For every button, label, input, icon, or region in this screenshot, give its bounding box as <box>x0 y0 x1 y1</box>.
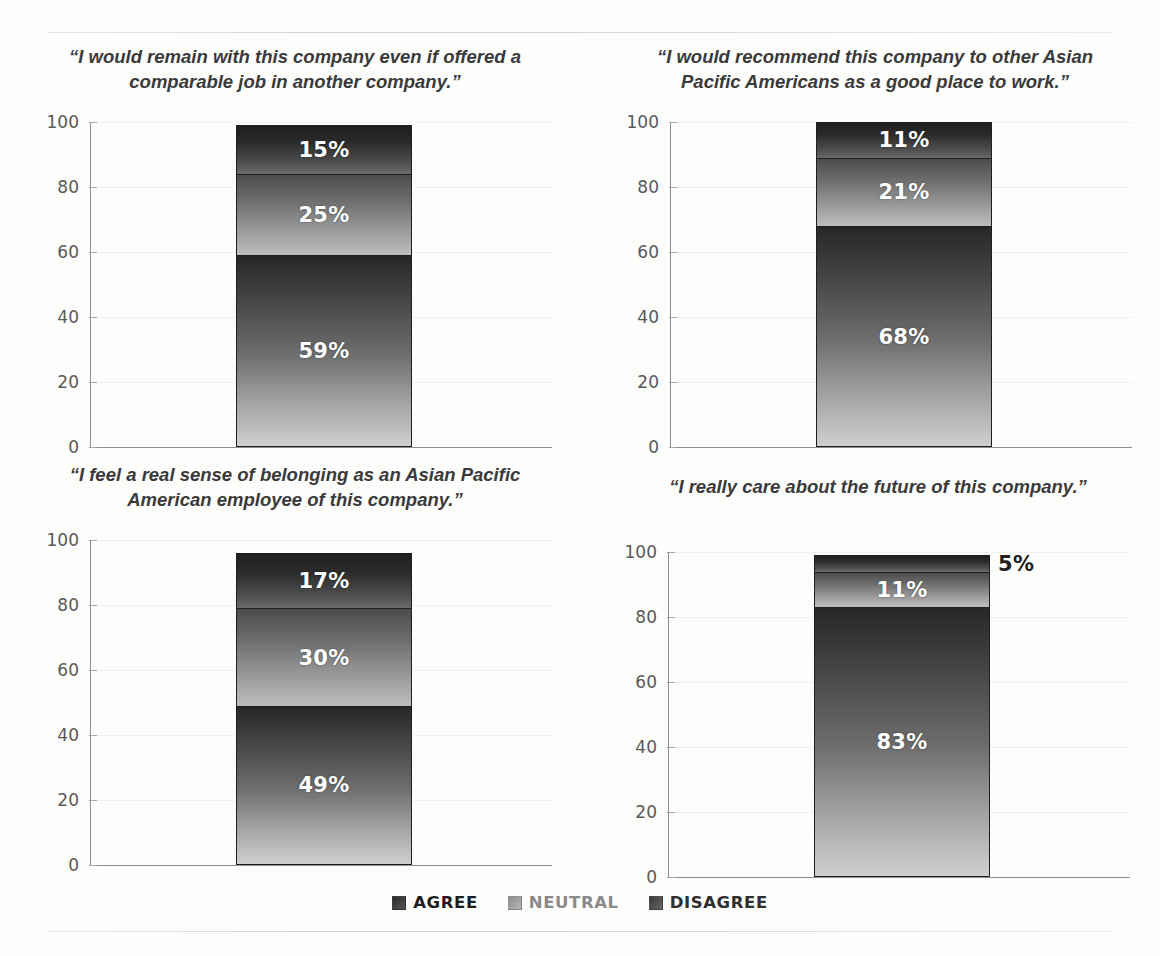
segment-value-label: 15% <box>298 138 349 162</box>
y-tick-20: 20 <box>637 372 659 392</box>
bar-segment-neutral[interactable]: 30% <box>236 608 412 706</box>
y-tick-0: 0 <box>646 867 657 887</box>
y-tick-40: 40 <box>57 307 79 327</box>
segment-value-label: 68% <box>878 325 929 349</box>
stacked-bar[interactable]: 15% 25% 59% <box>236 125 412 447</box>
legend-swatch-icon <box>392 896 406 910</box>
segment-value-label: 11% <box>878 128 929 152</box>
stacked-bar[interactable]: 5% 11% 83% <box>814 555 990 877</box>
chart-title: “I would recommend this company to other… <box>625 44 1125 94</box>
y-tick-80: 80 <box>57 177 79 197</box>
segment-value-label: 11% <box>876 578 927 602</box>
bar-segment-neutral[interactable]: 21% <box>816 158 992 226</box>
legend-item-neutral[interactable]: NEUTRAL <box>508 893 619 912</box>
segment-value-label: 30% <box>298 646 349 670</box>
legend-swatch-icon <box>649 896 663 910</box>
y-tick-40: 40 <box>637 307 659 327</box>
page-title <box>0 0 1160 8</box>
legend-label: NEUTRAL <box>529 893 619 912</box>
chart-panel-remain: “I would remain with this company even i… <box>0 40 580 460</box>
y-tick-80: 80 <box>637 177 659 197</box>
y-tick-40: 40 <box>57 725 79 745</box>
bar-segment-agree[interactable]: 49% <box>236 706 412 865</box>
stacked-bar[interactable]: 11% 21% 68% <box>816 122 992 447</box>
chart-grid: “I would remain with this company even i… <box>0 40 1160 890</box>
y-axis-line <box>90 122 91 447</box>
top-divider-rule <box>48 32 1112 33</box>
y-tick-20: 20 <box>57 790 79 810</box>
bottom-divider-rule <box>48 931 1112 932</box>
bar-segment-neutral[interactable]: 11% <box>814 572 990 608</box>
y-axis-line <box>90 540 91 865</box>
bar-segment-disagree[interactable]: 15% <box>236 125 412 174</box>
plot-area: 100 80 60 40 20 0 11% 21% 68% <box>670 122 1132 447</box>
y-tick-100: 100 <box>625 542 657 562</box>
y-tick-0: 0 <box>68 855 79 875</box>
y-tick-40: 40 <box>635 737 657 757</box>
bar-segment-disagree[interactable]: 11% <box>816 122 992 158</box>
segment-value-label: 21% <box>878 180 929 204</box>
bar-segment-agree[interactable]: 83% <box>814 607 990 877</box>
chart-panel-recommend: “I would recommend this company to other… <box>580 40 1160 460</box>
y-tick-60: 60 <box>637 242 659 262</box>
y-tick-20: 20 <box>57 372 79 392</box>
chart-title: “I really care about the future of this … <box>618 474 1138 499</box>
bar-segment-disagree[interactable]: 17% <box>236 553 412 608</box>
chart-title: “I would remain with this company even i… <box>45 44 545 94</box>
segment-value-label: 25% <box>298 203 349 227</box>
y-tick-60: 60 <box>635 672 657 692</box>
legend-item-disagree[interactable]: DISAGREE <box>649 893 768 912</box>
chart-legend: AGREE NEUTRAL DISAGREE <box>0 893 1160 912</box>
legend-item-agree[interactable]: AGREE <box>392 893 478 912</box>
bar-segment-agree[interactable]: 59% <box>236 255 412 447</box>
segment-value-label: 17% <box>298 569 349 593</box>
y-tick-80: 80 <box>57 595 79 615</box>
plot-area: 100 80 60 40 20 0 5% 11% 83% <box>668 552 1130 877</box>
y-tick-100: 100 <box>47 530 79 550</box>
chart-panel-future: “I really care about the future of this … <box>580 470 1160 890</box>
stacked-bar[interactable]: 17% 30% 49% <box>236 553 412 865</box>
chart-title: “I feel a real sense of belonging as an … <box>45 462 545 512</box>
legend-label: AGREE <box>413 893 478 912</box>
bar-segment-agree[interactable]: 68% <box>816 226 992 447</box>
y-axis-line <box>670 122 671 447</box>
legend-swatch-icon <box>508 896 522 910</box>
y-tick-20: 20 <box>635 802 657 822</box>
y-tick-0: 0 <box>648 437 659 457</box>
segment-value-label: 59% <box>298 339 349 363</box>
segment-value-label: 5% <box>998 552 1034 576</box>
segment-value-label: 49% <box>298 773 349 797</box>
chart-panel-belonging: “I feel a real sense of belonging as an … <box>0 458 580 878</box>
bar-segment-disagree[interactable]: 5% <box>814 555 990 571</box>
y-tick-60: 60 <box>57 242 79 262</box>
y-tick-60: 60 <box>57 660 79 680</box>
y-axis-line <box>668 552 669 877</box>
y-tick-80: 80 <box>635 607 657 627</box>
bar-segment-neutral[interactable]: 25% <box>236 174 412 255</box>
y-tick-100: 100 <box>627 112 659 132</box>
legend-label: DISAGREE <box>670 893 768 912</box>
plot-area: 100 80 60 40 20 0 17% 30% 49% <box>90 540 552 865</box>
plot-area: 100 80 60 40 20 0 15% 25% 59% <box>90 122 552 447</box>
segment-value-label: 83% <box>876 730 927 754</box>
y-tick-100: 100 <box>47 112 79 132</box>
y-tick-0: 0 <box>68 437 79 457</box>
